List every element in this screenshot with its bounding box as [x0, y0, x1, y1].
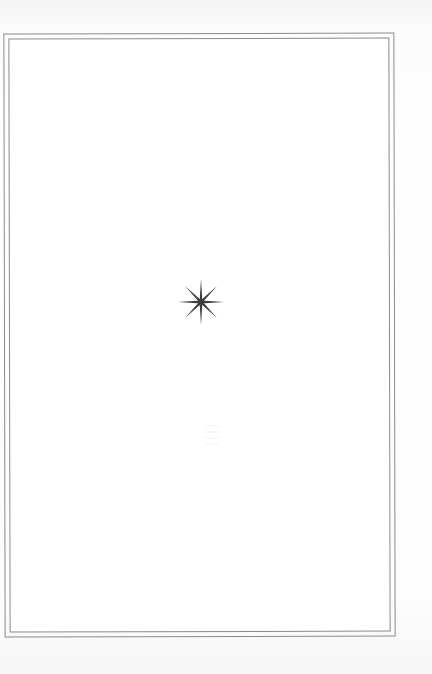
book-page — [0, 0, 432, 674]
inner-border-rule — [8, 38, 390, 633]
bleed-through-mark — [205, 425, 219, 447]
eight-pointed-star-icon — [177, 278, 225, 326]
